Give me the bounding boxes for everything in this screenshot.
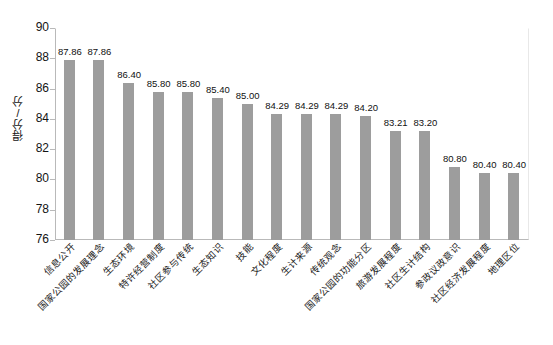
bar-group[interactable]: 80.40 [472,28,498,240]
y-axis-tick-label: 86 [9,82,49,94]
bar[interactable] [153,92,164,240]
bar[interactable] [123,83,134,240]
bar-group[interactable]: 86.40 [116,28,142,240]
bar[interactable] [508,173,519,240]
y-axis-tick-label: 80 [9,172,49,184]
y-axis-tick-label: 82 [9,142,49,154]
y-axis-tick-label: 84 [9,112,49,124]
bar-group[interactable]: 85.80 [146,28,172,240]
bar-value-label: 80.40 [489,160,539,170]
bar-group[interactable]: 84.29 [264,28,290,240]
bar[interactable] [242,104,253,240]
x-axis-category-text: 技能 [231,241,256,266]
bar[interactable] [182,92,193,240]
bar[interactable] [301,114,312,240]
bars-layer: 87.8687.8686.4085.8085.8085.4085.0084.29… [55,28,529,240]
bar-group[interactable]: 84.29 [294,28,320,240]
x-axis-labels: 信息公开国家公园的发展理念生态环境特许经营制度社区参与传统生态知识技能文化程度生… [55,241,553,345]
bar-group[interactable]: 85.80 [175,28,201,240]
bar-group[interactable]: 80.80 [442,28,468,240]
bar[interactable] [360,116,371,240]
bar[interactable] [330,114,341,240]
y-axis-tick-label: 88 [9,51,49,63]
y-axis-tick-label: 78 [9,203,49,215]
bar-group[interactable]: 84.20 [353,28,379,240]
bar[interactable] [93,60,104,240]
bar-chart-figure: 得分/分 9088868482807876 87.8687.8686.4085.… [0,0,553,345]
bar[interactable] [271,114,282,240]
bar-group[interactable]: 85.00 [235,28,261,240]
x-axis-category-label: 技能 [231,241,256,266]
bar[interactable] [212,98,223,240]
bar[interactable] [390,131,401,240]
bar[interactable] [449,167,460,240]
bar-group[interactable]: 83.21 [383,28,409,240]
bar-group[interactable]: 87.86 [86,28,112,240]
bar-group[interactable]: 83.20 [412,28,438,240]
bar-group[interactable]: 87.86 [57,28,83,240]
bar-group[interactable]: 84.29 [323,28,349,240]
bar[interactable] [419,131,430,240]
bar-group[interactable]: 80.40 [501,28,527,240]
y-axis-tick-label: 90 [9,21,49,33]
bar[interactable] [64,60,75,240]
bar[interactable] [479,173,490,240]
bar-group[interactable]: 85.40 [205,28,231,240]
y-axis-tick-label: 76 [9,233,49,245]
